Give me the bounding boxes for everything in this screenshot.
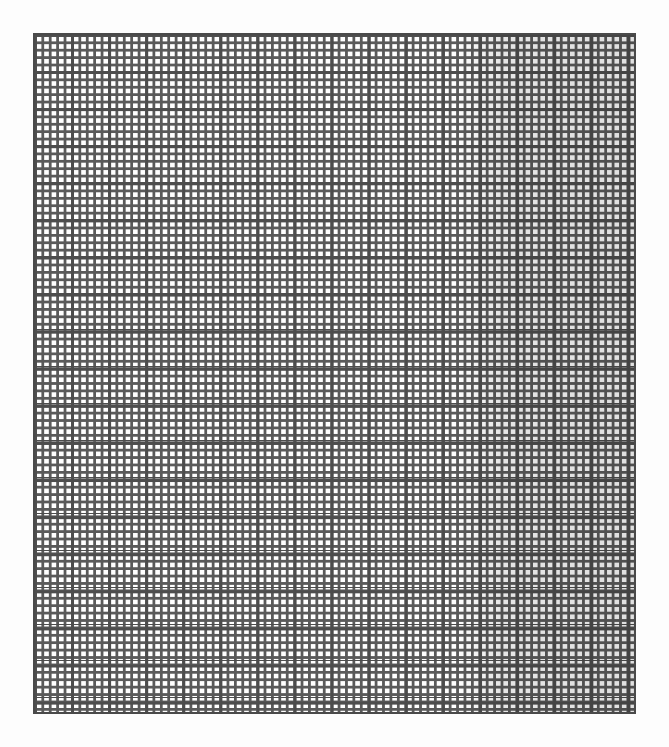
scan-shading — [35, 35, 634, 712]
scanned-page — [0, 0, 669, 747]
graph-paper-grid — [33, 33, 636, 714]
major-grid-lines — [35, 35, 634, 712]
